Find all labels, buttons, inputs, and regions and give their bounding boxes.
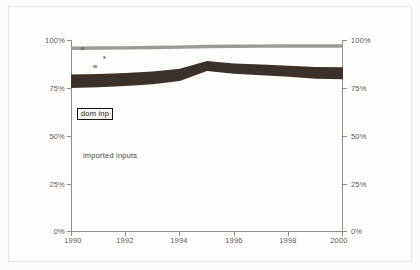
- x-label-1992: 1992: [116, 237, 134, 245]
- y-tick-right-0: [343, 231, 347, 232]
- x-label-1996: 1996: [225, 237, 243, 245]
- y-label-left-50: 50%: [49, 133, 65, 141]
- y-label-left-100: 100%: [45, 37, 65, 45]
- y-tick-right-25: [343, 184, 347, 185]
- x-label-1990: 1990: [64, 237, 82, 245]
- y-label-left-75: 75%: [49, 85, 65, 93]
- gray-band-path: [71, 44, 343, 50]
- y-label-left-25: 25%: [49, 181, 65, 189]
- y-tick-right-75: [343, 88, 347, 89]
- y-label-right-50: 50%: [351, 133, 367, 141]
- y-label-right-100: 100%: [351, 37, 371, 45]
- dom-inp-band-path: [71, 61, 343, 88]
- chart-canvas: 100% 75% 50% 25% 0% 100% 75% 50% 25% 0% …: [0, 0, 420, 270]
- y-label-right-75: 75%: [351, 85, 367, 93]
- imported-inputs-series-label: imported inputs: [83, 152, 137, 160]
- plot-area: 100% 75% 50% 25% 0% 100% 75% 50% 25% 0% …: [71, 40, 343, 232]
- data-bands-layer: [71, 40, 343, 232]
- y-label-right-25: 25%: [351, 181, 367, 189]
- x-label-2000: 2000: [330, 237, 348, 245]
- y-tick-right-50: [343, 136, 347, 137]
- dom-inp-series-label: dom inp: [77, 108, 113, 120]
- marker-s-label: s: [103, 54, 106, 60]
- y-tick-right-100: [343, 40, 347, 41]
- marker-o-label: o: [81, 45, 85, 51]
- marker-w-label: w: [93, 63, 98, 69]
- x-label-1994: 1994: [170, 237, 188, 245]
- y-label-right-0: 0%: [351, 228, 362, 236]
- x-label-1998: 1998: [279, 237, 297, 245]
- y-label-left-0: 0%: [54, 228, 65, 236]
